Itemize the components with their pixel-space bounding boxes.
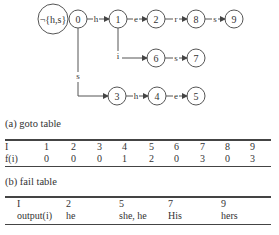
cell: 0 — [44, 153, 49, 164]
cell: 6 — [174, 141, 179, 152]
node-3: 3 — [108, 87, 126, 105]
svg-text:6: 6 — [154, 53, 159, 64]
node-9: 9 — [225, 10, 243, 28]
cell: 3 — [200, 153, 205, 164]
cell: I — [17, 198, 20, 209]
svg-text:0: 0 — [76, 14, 81, 25]
cell: f(i) — [5, 153, 18, 164]
cell: 2 — [66, 198, 71, 209]
cell: 1 — [44, 141, 49, 152]
svg-text:5: 5 — [194, 91, 199, 102]
node-4: 4 — [148, 87, 166, 105]
cell: 5 — [149, 141, 154, 152]
cell: 0 — [174, 153, 179, 164]
svg-text:e: e — [174, 91, 178, 101]
svg-text:s: s — [76, 71, 80, 81]
svg-text:3: 3 — [115, 91, 120, 102]
svg-text:h: h — [134, 91, 139, 101]
node-0: 0 — [69, 10, 87, 28]
fail-table-header-row: I 2 5 7 9 — [5, 198, 271, 210]
cell: 9 — [250, 141, 255, 152]
cell: he — [66, 210, 75, 221]
svg-text:2: 2 — [154, 14, 159, 25]
svg-text:4: 4 — [155, 91, 160, 102]
goto-table-caption: (a) goto table — [5, 118, 61, 129]
svg-text:e: e — [134, 14, 138, 24]
svg-text:s: s — [174, 53, 178, 63]
cell: I — [5, 141, 8, 152]
cell: 8 — [225, 141, 230, 152]
node-7: 7 — [187, 49, 205, 67]
cell: 4 — [122, 141, 127, 152]
node-6: 6 — [147, 49, 165, 67]
svg-text:h: h — [94, 14, 99, 24]
cell: she, he — [119, 210, 147, 221]
cell: 1 — [122, 153, 127, 164]
cell: 3 — [250, 153, 255, 164]
goto-table-header-row: I 1 2 3 4 5 6 7 8 9 — [5, 141, 271, 153]
node-5: 5 — [187, 87, 205, 105]
svg-text:9: 9 — [232, 14, 237, 25]
cell: 9 — [221, 198, 226, 209]
cell: hers — [221, 210, 238, 221]
fail-table-bottom-rule — [5, 224, 271, 225]
svg-text:1: 1 — [116, 14, 121, 25]
svg-text:r: r — [175, 14, 178, 24]
node-1: 1 — [109, 10, 127, 28]
svg-text:8: 8 — [194, 14, 199, 25]
cell: 3 — [97, 141, 102, 152]
goto-table-value-row: f(i) 0 0 0 1 2 0 3 0 3 — [5, 153, 271, 165]
cell: 7 — [168, 198, 173, 209]
root-node: ¬{h,s} — [38, 4, 68, 34]
svg-text:¬{h,s}: ¬{h,s} — [40, 14, 67, 25]
cell: 7 — [200, 141, 205, 152]
fail-table-caption: (b) fail table — [5, 176, 57, 187]
fail-table-value-row: output(i) he she, he His hers — [5, 210, 271, 222]
cell: His — [168, 210, 182, 221]
node-2: 2 — [147, 10, 165, 28]
cell: 2 — [149, 153, 154, 164]
cell: 5 — [119, 198, 124, 209]
cell: 0 — [225, 153, 230, 164]
cell: 0 — [97, 153, 102, 164]
node-8: 8 — [187, 10, 205, 28]
svg-text:s: s — [213, 14, 217, 24]
svg-text:7: 7 — [194, 53, 199, 64]
cell: 0 — [71, 153, 76, 164]
goto-graph: ¬{h,s} 0 h 1 e 2 r 8 s 9 i 6 — [0, 0, 279, 125]
cell: 2 — [71, 141, 76, 152]
goto-table-bottom-rule — [5, 166, 271, 167]
cell: output(i) — [17, 210, 52, 221]
